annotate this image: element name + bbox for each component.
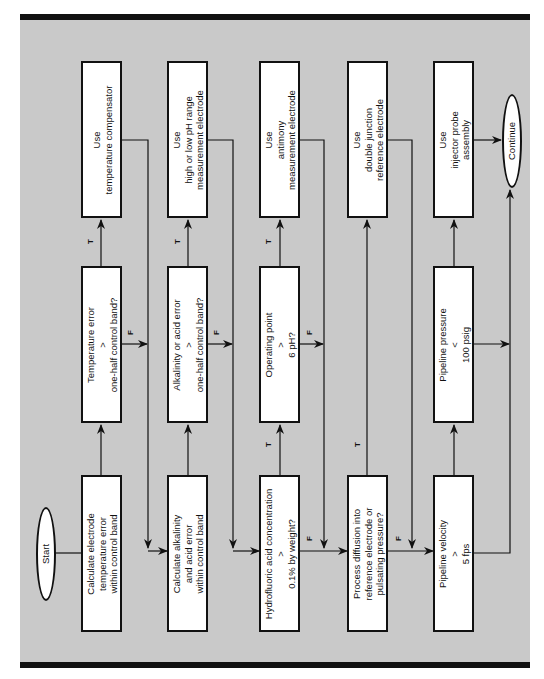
continue-label: Continue: [506, 122, 518, 160]
antimony-electrode-box: Use antimony measurement electrode: [259, 61, 300, 218]
hf-concentration-decision-box: Hydrofluoric acid concentration > 0.1% b…: [259, 475, 300, 632]
false-label: F: [305, 330, 314, 335]
true-label: T: [264, 442, 273, 447]
process-diffusion-decision-box: Process diffusion into reference electro…: [347, 475, 388, 632]
pipeline-pressure-decision-box: Pipeline pressure < 100 psig: [433, 266, 474, 423]
temp-compensator-box: Use temperature compensator: [81, 61, 122, 218]
alkalinity-decision-box: Alkalinity or acid error > one-half cont…: [167, 266, 208, 423]
temp-error-decision-box: Temperature error > one-half control ban…: [81, 266, 122, 423]
true-label: T: [173, 239, 182, 244]
calc-alkalinity-box: Calculate alkalinity and acid error with…: [167, 475, 208, 632]
true-label: T: [86, 239, 95, 244]
true-label: T: [353, 442, 362, 447]
continue-terminal: Continue: [502, 94, 522, 188]
false-label: F: [305, 536, 314, 541]
pipeline-velocity-decision-box: Pipeline velocity > 5 fps: [433, 475, 474, 632]
calc-temp-error-box: Calculate electrode temperature error wi…: [81, 475, 122, 632]
start-terminal: Start: [36, 507, 56, 601]
operating-point-decision-box: Operating point > 6 pH?: [259, 266, 300, 423]
start-label: Start: [40, 544, 52, 564]
true-label: T: [264, 239, 273, 244]
injector-probe-box: Use injector probe assembly: [433, 61, 474, 218]
false-label: F: [126, 330, 135, 335]
false-label: F: [394, 536, 403, 541]
ph-range-electrode-box: Use high or low pH range measurement ele…: [167, 61, 208, 218]
false-label: F: [212, 330, 221, 335]
double-junction-electrode-box: Use double junction reference electrode: [347, 61, 388, 218]
